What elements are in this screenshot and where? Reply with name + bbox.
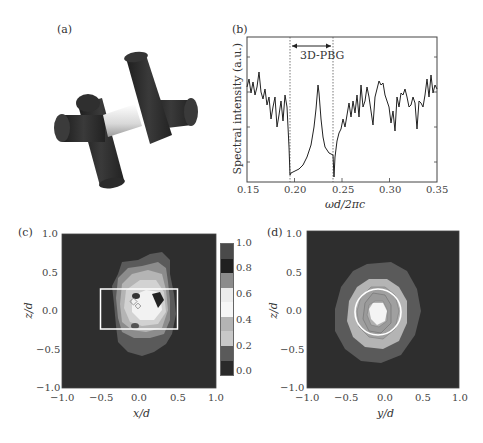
c-ytick-2: 0.0: [42, 305, 58, 316]
c-xtick-2: 0.0: [131, 392, 147, 403]
d-xtick-4: 1.0: [452, 392, 468, 403]
rod-left: [54, 114, 105, 142]
rod-upper-left-cap: [76, 94, 100, 112]
panel-c-label: (c): [18, 226, 33, 239]
b-ylabel: Spectral intensity (a.u.): [231, 45, 244, 175]
woodpile-structure-illustration: [0, 0, 220, 210]
c-xtick-0: −1.0: [50, 392, 74, 403]
d-xlabel: y/d: [377, 407, 394, 420]
c-xlabel: x/d: [133, 407, 150, 420]
d-xtick-3: 0.5: [415, 392, 431, 403]
cbar-tick-1: 0.8: [236, 262, 252, 273]
panel-d-label: (d): [267, 226, 283, 239]
c-ytick-1: 0.5: [42, 267, 58, 278]
rod-upper-right: [123, 50, 172, 144]
c-xtick-3: 0.5: [170, 392, 186, 403]
c-ytick-0: 1.0: [42, 228, 58, 239]
cbar-tick-2: 0.6: [236, 288, 252, 299]
d-ylabel: z/d: [267, 302, 280, 319]
b-xtick-1: 0.20: [284, 184, 306, 195]
b-xtick-3: 0.30: [379, 184, 401, 195]
b-xtick-4: 0.35: [426, 184, 448, 195]
colorbar: [220, 243, 234, 376]
d-xtick-2: 0.0: [377, 392, 393, 403]
c-xtick-1: −0.5: [89, 392, 113, 403]
cbar-tick-5: 0.0: [236, 365, 252, 376]
pbg-annotation: 3D-PBG: [300, 49, 344, 62]
d-ytick-2: 0.0: [286, 305, 302, 316]
b-xlabel: ωd/2πc: [325, 198, 365, 211]
b-xtick-2: 0.25: [332, 184, 354, 195]
panel-b-label: (b): [232, 23, 248, 36]
cbar-tick-3: 0.4: [236, 314, 252, 325]
c-xtick-4: 1.0: [208, 392, 224, 403]
cbar-tick-0: 1.0: [236, 237, 252, 248]
d-xtick-0: −1.0: [295, 392, 319, 403]
d-xtick-1: −0.5: [334, 392, 358, 403]
d-ytick-1: 0.5: [286, 267, 302, 278]
defect-rod: [103, 104, 142, 137]
field-map-d: [307, 231, 459, 388]
c-ylabel: z/d: [22, 302, 35, 319]
d-ytick-0: 1.0: [286, 228, 302, 239]
c-ytick-3: −0.5: [36, 344, 60, 355]
b-xtick-0: 0.15: [237, 184, 259, 195]
field-map-c: [62, 234, 216, 388]
cbar-tick-4: 0.2: [236, 340, 252, 351]
d-ytick-3: −0.5: [280, 344, 304, 355]
